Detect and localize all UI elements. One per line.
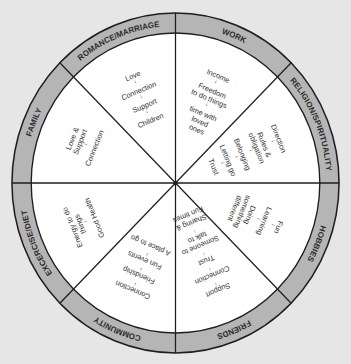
- life-wheel-diagram: ROMANCE/MARRIAGEWORKRELIGION/SPIRITUALIT…: [0, 0, 351, 364]
- center-hub: [173, 181, 177, 185]
